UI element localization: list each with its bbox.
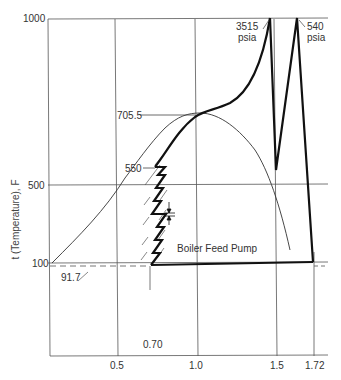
boiler-exit-label: 550 (125, 163, 142, 174)
diagram-canvas (0, 0, 341, 380)
y-axis-label: t (Temperature), F (10, 165, 21, 275)
feedwater-temp-label: 91.7 (61, 272, 80, 283)
cycle-path (151, 18, 313, 265)
ts-diagram: t (Temperature), F 1000 500 100 0.5 1.0 … (0, 0, 341, 380)
x-tick-1.0: 1.0 (189, 360, 203, 371)
y-tick-1000: 1000 (23, 13, 45, 24)
pump-label: Boiler Feed Pump (177, 243, 257, 254)
x-tick-1.5: 1.5 (270, 360, 284, 371)
critical-point-label: 705.5 (117, 110, 142, 121)
entropy-start-label: 0.70 (143, 339, 162, 350)
high-pressure-value: 3515 (236, 21, 258, 32)
high-pressure-unit: psia (238, 32, 256, 43)
y-tick-500: 500 (28, 180, 45, 191)
reheat-pressure-value: 540 (307, 21, 324, 32)
grid-lines (48, 18, 328, 356)
x-tick-1.72: 1.72 (305, 360, 324, 371)
saturation-dome (52, 113, 290, 263)
y-tick-100: 100 (32, 258, 49, 269)
x-tick-0.5: 0.5 (110, 360, 124, 371)
reheat-pressure-unit: psia (307, 32, 325, 43)
